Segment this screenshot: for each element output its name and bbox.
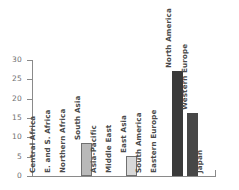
plot-area: Central AfricaE. and S. AfricaNorthern A…: [33, 0, 215, 176]
x-axis-cap-right: [215, 170, 216, 177]
y-axis-tick-label: 25: [0, 75, 22, 83]
x-axis-category-label: Central Africa: [29, 116, 37, 173]
x-axis-category-label: Middle East: [105, 125, 113, 173]
x-axis-category-label: Northern Africa: [59, 109, 67, 173]
y-axis-tick-label: 15: [0, 114, 22, 122]
x-axis-category-label: South Asia: [74, 95, 82, 139]
y-axis-tick: [27, 79, 32, 80]
y-axis-tick-label: 30: [0, 56, 22, 64]
x-axis-category-label: East Asia: [120, 115, 128, 153]
bar-group[interactable]: Japan: [200, 0, 215, 176]
y-axis-tick: [27, 60, 32, 61]
y-axis-tick: [27, 99, 32, 100]
x-axis-category-label: Asia-Pacific: [90, 125, 98, 173]
bar-group[interactable]: Northern Africa: [63, 0, 78, 176]
y-axis-tick-label: 0: [0, 172, 22, 180]
y-axis-tick-label: 20: [0, 95, 22, 103]
x-axis-category-label: Western Europe: [181, 43, 189, 109]
x-axis-category-label: Eastern Europe: [150, 110, 158, 173]
x-axis-line: [32, 176, 216, 177]
x-axis-category-label: E. and S. Africa: [44, 109, 52, 173]
x-axis-category-label: Japan: [196, 150, 204, 173]
x-axis-category-label: South America: [135, 112, 143, 173]
y-axis-tick-label: 5: [0, 153, 22, 161]
y-axis-tick-label: 10: [0, 133, 22, 141]
x-axis-category-label: North America: [165, 8, 173, 68]
bar-chart: 051015202530 Central AfricaE. and S. Afr…: [0, 0, 239, 190]
